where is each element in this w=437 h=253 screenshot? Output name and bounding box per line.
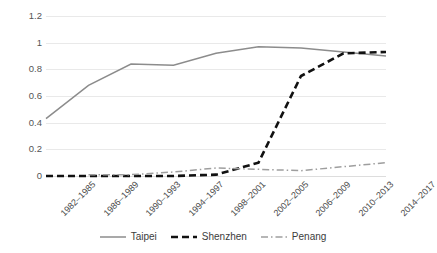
legend-swatch-penang [261, 232, 287, 242]
x-tick-label: 2006–2009 [314, 180, 352, 218]
legend-swatch-shenzhen [171, 232, 197, 242]
legend-item-taipei[interactable]: Taipei [100, 232, 157, 242]
y-tick-label: 0.8 [2, 64, 42, 74]
legend-label: Taipei [131, 232, 157, 242]
x-tick-label: 1982–1985 [59, 180, 97, 218]
x-tick-label: 1990–1993 [144, 180, 182, 218]
legend-item-penang[interactable]: Penang [261, 232, 326, 242]
y-tick-label: 1 [2, 38, 42, 48]
y-tick-label: 0.4 [2, 118, 42, 128]
y-tick-label: 0 [2, 171, 42, 181]
series-line-penang [89, 163, 387, 175]
series-line-taipei [46, 47, 386, 119]
x-tick-label: 1994–1997 [187, 180, 225, 218]
y-axis: 00.20.40.60.811.2 [0, 16, 42, 176]
x-tick-label: 2002–2005 [272, 180, 310, 218]
x-tick-label: 1986–1989 [102, 180, 140, 218]
legend-swatch-taipei [100, 232, 126, 242]
series-line-shenzhen [46, 52, 386, 176]
y-tick-label: 1.2 [2, 11, 42, 21]
legend-label: Penang [292, 232, 326, 242]
legend-label: Shenzhen [202, 232, 247, 242]
chart-legend: TaipeiShenzhenPenang [0, 232, 426, 242]
plot-area [46, 16, 386, 176]
legend-item-shenzhen[interactable]: Shenzhen [171, 232, 247, 242]
series-layer [46, 16, 386, 176]
x-tick-label: 1998–2001 [229, 180, 267, 218]
y-tick-label: 0.6 [2, 91, 42, 101]
x-tick-label: 2014–2017 [399, 180, 437, 218]
x-axis: 1982–19851986–19891990–19931994–19971998… [46, 178, 386, 230]
x-tick-label: 2010–2013 [357, 180, 395, 218]
y-tick-label: 0.2 [2, 144, 42, 154]
